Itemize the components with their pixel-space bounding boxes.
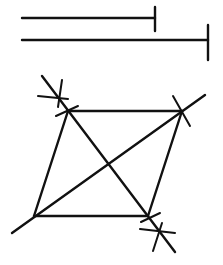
side-da	[34, 111, 68, 216]
given-segments	[22, 7, 208, 60]
arc-mark-top-left-1	[38, 96, 68, 99]
compass-arc-marks	[38, 80, 190, 251]
diagonal-ac	[42, 76, 175, 252]
side-bc	[148, 111, 182, 216]
rhombus-construction-diagram	[0, 0, 223, 265]
